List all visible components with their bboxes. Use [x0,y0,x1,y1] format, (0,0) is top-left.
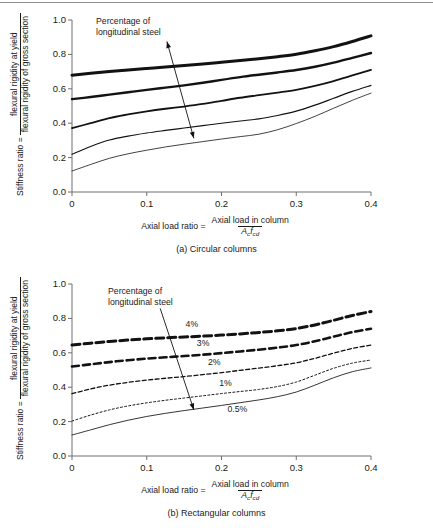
x-axis-label-numerator: Axial load in column [209,480,292,490]
annotation-text-line1: Percentage of [108,286,173,297]
x-axis-label-lead: Axial load ratio = [141,221,205,231]
annotation-arrowhead [190,403,195,410]
annotation-arrow-line [167,42,194,139]
y-axis-label-denominator: flexural rigidity of gross section [20,13,31,135]
y-tick-label: 0.6 [30,83,66,94]
annotation-arrowhead [166,42,171,49]
series-curve-0-5pct [72,93,371,171]
y-tick-label: 0.4 [30,117,66,128]
annotation-text: Percentage oflongitudinal steel [108,286,173,307]
y-tick-label: 0.8 [30,312,66,323]
x-axis-label-denominator: Acfcd [238,226,262,237]
series-curve-1pct [72,360,371,421]
x-axis-label-lead: Axial load ratio = [141,485,205,495]
y-axis-label-lead: Stiffness ratio = [15,401,25,460]
series-label-3pct: 3% [197,338,210,348]
x-tick-label: 0.2 [204,462,240,473]
y-axis-label-lead: Stiffness ratio = [15,137,25,196]
y-tick-label: 1.0 [30,278,66,289]
y-tick-label: 0.4 [30,381,66,392]
x-axis-label: Axial load ratio =Axial load in columnAc… [0,480,433,500]
y-tick-label: 0.0 [30,186,66,197]
x-tick-label: 0.3 [278,462,314,473]
y-tick-label: 0.8 [30,48,66,59]
x-tick-label: 0.1 [129,462,165,473]
x-tick-label: 0 [54,462,90,473]
y-axis-label: Stiffness ratio =flexural rigidity at yi… [10,277,30,460]
y-tick-label: 0.0 [30,450,66,461]
figure-caption: (a) Circular columns [0,244,433,254]
series-curve-4pct [72,36,371,75]
y-tick-label: 1.0 [30,14,66,25]
y-axis-label-denominator: flexural rigidity of gross section [20,277,31,399]
y-tick-label: 0.2 [30,152,66,163]
series-label-2pct: 2% [208,357,221,367]
annotation-text-line2: longitudinal steel [108,297,173,308]
y-axis-label: Stiffness ratio =flexural rigidity at yi… [10,13,30,196]
x-tick-label: 0.1 [129,198,165,209]
series-curve-4pct [72,312,371,346]
annotation-arrowhead [190,131,195,138]
y-axis-label-numerator: flexural rigidity at yield [10,293,20,383]
series-curve-3pct [72,53,371,99]
series-label-4pct: 4% [186,319,199,329]
series-curve-2pct [72,70,371,128]
axis-spines [72,284,371,456]
x-tick-label: 0.4 [353,198,389,209]
annotation-text-line1: Percentage of [96,16,161,27]
x-axis-label-numerator: Axial load in column [209,216,292,226]
figure-circular-columns: 0.00.20.40.60.81.000.10.20.30.4Stiffness… [0,0,433,264]
annotation-text: Percentage oflongitudinal steel [96,16,161,37]
x-tick-label: 0.2 [204,198,240,209]
axis-spines [72,20,371,192]
x-axis-label-denominator: Acfcd [238,490,262,501]
x-tick-label: 0 [54,198,90,209]
figure-caption: (b) Rectangular columns [0,508,433,518]
figure-rectangular-columns: 0.00.20.40.60.81.000.10.20.30.4Stiffness… [0,264,433,528]
y-axis-label-numerator: flexural rigidity at yield [10,29,20,119]
y-tick-label: 0.6 [30,347,66,358]
y-tick-label: 0.2 [30,416,66,427]
series-label-0-5pct: 0.5% [227,404,247,414]
x-tick-label: 0.4 [353,462,389,473]
series-label-1pct: 1% [219,378,232,388]
annotation-text-line2: longitudinal steel [96,27,161,38]
x-axis-label: Axial load ratio =Axial load in columnAc… [0,216,433,236]
x-tick-label: 0.3 [278,198,314,209]
series-curve-1pct [72,85,371,154]
